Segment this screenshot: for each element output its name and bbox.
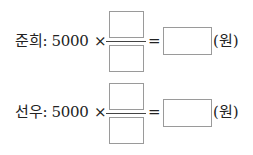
problem-row-junhee: 준희: 5000 × = (원) — [0, 0, 253, 70]
fraction-bar — [106, 113, 146, 114]
answer-input-box[interactable] — [163, 99, 212, 127]
numerator-input-box[interactable] — [109, 11, 144, 38]
unit-label: (원) — [213, 32, 239, 50]
answer-input-box[interactable] — [163, 27, 212, 55]
multiply-sign: × — [94, 32, 107, 50]
numerator-input-box[interactable] — [109, 83, 144, 110]
expression-label: 준희: 5000 — [15, 32, 89, 50]
expression-label: 선우: 5000 — [15, 103, 89, 121]
denominator-input-box[interactable] — [109, 117, 144, 144]
problem-row-sunwoo: 선우: 5000 × = (원) — [0, 75, 253, 145]
denominator-input-box[interactable] — [109, 45, 144, 72]
multiply-sign: × — [94, 103, 107, 121]
unit-label: (원) — [213, 103, 239, 121]
equals-sign: = — [148, 32, 161, 50]
equals-sign: = — [148, 103, 161, 121]
fraction-bar — [106, 41, 146, 42]
